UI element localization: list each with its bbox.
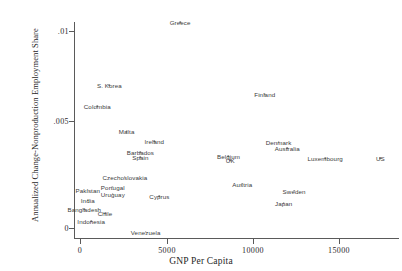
data-point-label: Sweden — [283, 187, 306, 194]
data-point-label: Colombia — [84, 103, 111, 110]
plot-area: GreeceS. KoreaFinlandColombiaMaltaIrelan… — [0, 0, 402, 271]
data-point-label: Pakistan — [75, 186, 100, 193]
data-point-label: Austria — [232, 180, 252, 187]
data-point-label: Uruguay — [101, 190, 125, 197]
data-point-label: Malta — [119, 128, 135, 135]
scatter-plot-figure: 0 .005 .01 0 5000 10000 15000 GNP Per Ca… — [0, 0, 402, 271]
data-point-label: Finland — [254, 91, 275, 98]
data-point-label: India — [81, 197, 95, 204]
data-point-label: Venezuela — [131, 228, 161, 235]
data-point-label: Cyprus — [149, 193, 169, 200]
data-point-label: Bangladesh — [67, 206, 101, 213]
data-point-label: Greece — [170, 19, 191, 26]
data-point-label: Czechoslovakia — [103, 173, 148, 180]
data-point-label: Australia — [275, 145, 300, 152]
data-point-label: US — [376, 155, 385, 162]
data-point-label: Ireland — [144, 138, 164, 145]
data-point-label: Chile — [98, 210, 113, 217]
data-point-label: Spain — [132, 154, 148, 161]
data-point-label: Indonesia — [77, 218, 105, 225]
data-point-label: S. Korea — [97, 82, 122, 89]
data-point-label: UK — [226, 157, 235, 164]
data-point-label: Japan — [275, 200, 292, 207]
data-point-label: Luxembourg — [307, 155, 342, 162]
